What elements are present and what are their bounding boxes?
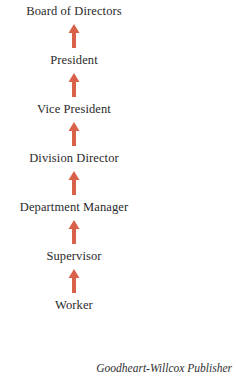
publisher-credit: Goodheart-Willcox Publisher [96, 361, 232, 375]
hierarchy-level-division-director: Division Director [29, 151, 119, 166]
arrow-up-icon [66, 220, 82, 244]
arrow-up-icon [66, 24, 82, 48]
hierarchy-level-supervisor: Supervisor [46, 249, 101, 264]
arrow-up-icon [66, 171, 82, 195]
hierarchy-column: Board of Directors President Vice Presid… [0, 4, 148, 313]
hierarchy-level-department-manager: Department Manager [20, 200, 128, 215]
arrow-up-icon [66, 269, 82, 293]
hierarchy-level-board-of-directors: Board of Directors [26, 4, 122, 19]
hierarchy-level-president: President [50, 53, 97, 68]
organization-hierarchy-diagram: Board of Directors President Vice Presid… [0, 0, 236, 381]
hierarchy-level-worker: Worker [55, 298, 93, 313]
arrow-up-icon [66, 122, 82, 146]
hierarchy-level-vice-president: Vice President [37, 102, 111, 117]
arrow-up-icon [66, 73, 82, 97]
